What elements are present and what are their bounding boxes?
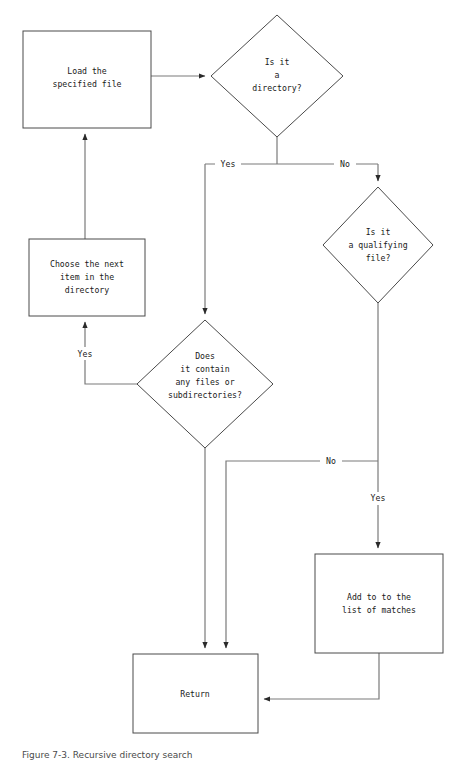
node-add-to-matches-line-1: list of matches <box>342 605 416 615</box>
node-load-specified-file-line-0: Load the <box>67 66 107 76</box>
node-choose-next-item-line-0: Choose the next <box>50 259 124 269</box>
flowchart-figure: Load the specified file Is it a director… <box>0 0 467 765</box>
node-does-it-contain-line-1: it contain <box>180 364 229 374</box>
node-add-to-matches <box>315 554 443 653</box>
node-is-it-a-qualifying-file-line-1: a qualifying <box>348 240 407 250</box>
flowchart-canvas: Load the specified file Is it a director… <box>0 0 467 765</box>
node-does-it-contain-line-0: Does <box>195 351 215 361</box>
edge-label-directory-yes: Yes <box>221 159 236 169</box>
node-does-it-contain-line-3: subdirectories? <box>168 390 242 400</box>
node-is-it-a-qualifying-file-line-2: file? <box>366 253 391 263</box>
node-load-specified-file-line-1: specified file <box>52 79 121 89</box>
node-add-to-matches-line-0: Add to to the <box>347 592 411 602</box>
node-is-it-a-directory-line-2: directory? <box>252 83 301 93</box>
node-is-it-a-directory-line-0: Is it <box>265 57 290 67</box>
edge-label-contain-yes: Yes <box>78 349 93 359</box>
edge-label-qualifying-yes: Yes <box>371 493 386 503</box>
node-return-line-0: Return <box>180 689 210 699</box>
node-does-it-contain-line-2: any files or <box>175 377 234 387</box>
edge-label-directory-no: No <box>340 159 350 169</box>
figure-caption: Figure 7-3. Recursive directory search <box>22 750 192 760</box>
edge-label-contain-no: No <box>326 456 336 466</box>
edge-addmatches-to-return <box>264 653 379 699</box>
node-is-it-a-directory-line-1: a <box>275 70 280 80</box>
node-choose-next-item-line-1: item in the <box>60 272 114 282</box>
node-is-it-a-qualifying-file-line-0: Is it <box>366 227 391 237</box>
node-choose-next-item-line-2: directory <box>65 285 109 295</box>
